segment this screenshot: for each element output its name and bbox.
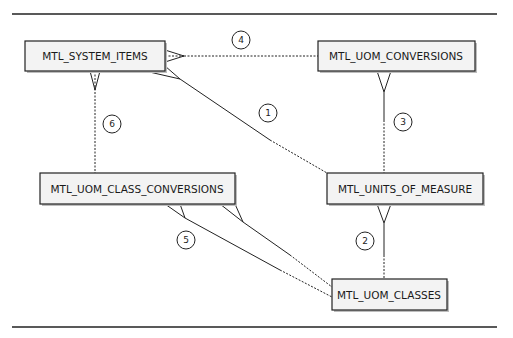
entity-mtl-uom-class-conversions[interactable]: MTL_UOM_CLASS_CONVERSIONS [40,173,237,206]
relationship-badge-3: 3 [394,113,412,131]
relationship-2 [377,204,391,279]
relationship-3 [377,71,391,173]
relationship-6 [90,71,100,173]
relationship-badge-4: 4 [232,31,250,49]
er-diagram: MTL_SYSTEM_ITEMS MTL_UOM_CONVERSIONS MTL… [0,0,513,338]
svg-text:3: 3 [400,117,406,127]
svg-text:4: 4 [238,35,244,45]
entity-label: MTL_UNITS_OF_MEASURE [338,183,472,196]
relationship-badge-1: 1 [259,104,277,122]
relationship-badge-2: 2 [356,232,374,250]
relationship-5 [165,204,332,297]
relationship-badge-6: 6 [103,115,121,133]
svg-text:6: 6 [109,119,115,129]
svg-text:2: 2 [362,236,368,246]
entity-mtl-system-items[interactable]: MTL_SYSTEM_ITEMS [25,41,167,73]
entity-mtl-uom-conversions[interactable]: MTL_UOM_CONVERSIONS [318,41,477,73]
entity-label: MTL_SYSTEM_ITEMS [42,50,148,63]
entity-label: MTL_UOM_CLASS_CONVERSIONS [50,183,223,196]
entity-label: MTL_UOM_CONVERSIONS [329,50,463,63]
svg-text:1: 1 [265,108,271,118]
relationship-badge-5: 5 [177,231,195,249]
svg-text:5: 5 [183,235,189,245]
entity-label: MTL_UOM_CLASSES [337,289,441,302]
entity-mtl-uom-classes[interactable]: MTL_UOM_CLASSES [332,279,449,312]
relationship-1 [145,66,327,173]
entity-mtl-units-of-measure[interactable]: MTL_UNITS_OF_MEASURE [327,173,485,206]
relationship-4 [165,50,318,62]
